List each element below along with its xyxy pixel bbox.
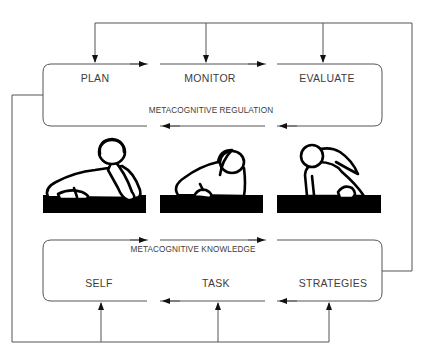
feedback-line-right	[95, 23, 412, 271]
stage-monitor: MONITOR	[184, 72, 236, 84]
stage-evaluate: EVALUATE	[299, 72, 355, 84]
regulation-title: METACOGNITIVE REGULATION	[149, 106, 273, 115]
metacognition-diagram: PLAN MONITOR EVALUATE METACOGNITIVE REGU…	[0, 0, 433, 356]
student-figure-3	[301, 145, 364, 198]
component-task: TASK	[202, 277, 230, 289]
student-figure-2	[176, 150, 245, 198]
stage-plan: PLAN	[81, 72, 110, 84]
component-strategies: STRATEGIES	[299, 277, 368, 289]
diagram-lines	[0, 0, 433, 356]
student-figure-1	[47, 139, 140, 200]
component-self: SELF	[85, 277, 112, 289]
desk-3	[277, 195, 381, 213]
feedback-line-left	[12, 95, 329, 342]
knowledge-title: METACOGNITIVE KNOWLEDGE	[131, 245, 256, 254]
